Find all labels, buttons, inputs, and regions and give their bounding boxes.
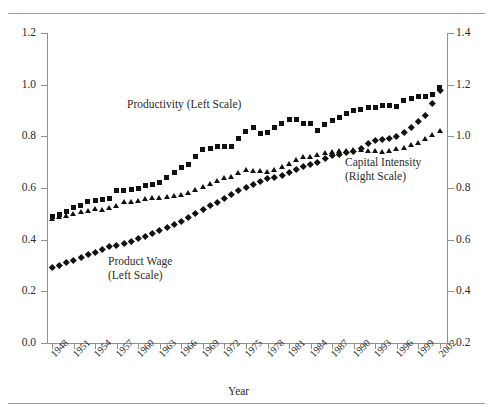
annotation-product-wage-line2: (Left Scale)	[108, 269, 163, 283]
data-point-marker	[271, 174, 277, 180]
data-point-marker	[300, 163, 306, 169]
data-point-marker	[350, 148, 356, 154]
data-point-marker	[343, 149, 349, 155]
data-point-marker	[185, 214, 191, 220]
data-point-marker	[128, 238, 134, 244]
data-point-marker	[121, 240, 127, 246]
data-point-marker	[437, 87, 443, 93]
data-point-marker	[329, 152, 335, 158]
data-point-marker	[99, 246, 105, 252]
data-point-marker	[293, 166, 299, 172]
data-point-marker	[422, 112, 428, 118]
data-point-marker	[358, 145, 364, 151]
data-point-marker	[192, 210, 198, 216]
data-point-marker	[171, 221, 177, 227]
data-point-marker	[49, 264, 55, 270]
data-point-marker	[401, 129, 407, 135]
data-point-marker	[178, 218, 184, 224]
data-point-marker	[214, 199, 220, 205]
data-point-marker	[379, 136, 385, 142]
data-point-marker	[164, 224, 170, 230]
data-point-marker	[135, 235, 141, 241]
annotation-product-wage-line1: Product Wage	[108, 255, 172, 269]
data-point-marker	[286, 169, 292, 175]
x-axis-title: Year	[228, 385, 249, 397]
data-point-marker	[393, 133, 399, 139]
data-point-marker	[70, 257, 76, 263]
data-point-marker	[429, 100, 435, 106]
data-point-marker	[149, 230, 155, 236]
data-point-marker	[207, 202, 213, 208]
data-point-marker	[250, 181, 256, 187]
data-point-marker	[221, 195, 227, 201]
data-point-marker	[200, 206, 206, 212]
annotation-capital-intensity-line1: Capital Intensity	[345, 156, 421, 170]
data-point-marker	[228, 191, 234, 197]
data-point-marker	[257, 178, 263, 184]
data-point-marker	[63, 259, 69, 265]
data-point-marker	[113, 242, 119, 248]
annotation-productivity: Productivity (Left Scale)	[127, 98, 241, 112]
data-point-marker	[279, 172, 285, 178]
data-point-marker	[372, 137, 378, 143]
data-point-marker	[56, 262, 62, 268]
data-point-marker	[243, 184, 249, 190]
data-point-marker	[386, 135, 392, 141]
data-point-marker	[156, 227, 162, 233]
data-point-marker	[314, 159, 320, 165]
data-point-marker	[142, 233, 148, 239]
data-point-marker	[415, 118, 421, 124]
data-point-marker	[322, 155, 328, 161]
data-point-marker	[85, 251, 91, 257]
data-point-marker	[92, 249, 98, 255]
data-point-marker	[408, 124, 414, 130]
data-point-marker	[106, 243, 112, 249]
figure-container: 0.00.20.40.60.81.01.2 0.20.40.60.81.01.2…	[0, 0, 493, 417]
data-point-marker	[78, 254, 84, 260]
annotation-capital-intensity-line2: (Right Scale)	[345, 170, 406, 184]
data-point-marker	[336, 151, 342, 157]
data-point-marker	[264, 175, 270, 181]
data-point-marker	[235, 187, 241, 193]
data-point-marker	[365, 140, 371, 146]
series-diamond	[0, 0, 493, 417]
